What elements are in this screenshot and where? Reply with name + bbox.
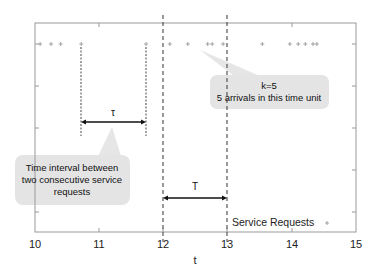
- tau-arrow: [81, 120, 146, 125]
- T-arrow: [163, 196, 227, 201]
- T-label: T: [192, 181, 198, 192]
- callout-left-line-1: Time interval between: [26, 162, 119, 173]
- x-tick-label-13: 13: [221, 238, 233, 250]
- x-tick-label-15: 15: [350, 238, 362, 250]
- callout-right-pointer: [200, 50, 260, 76]
- x-tick-label-14: 14: [286, 238, 298, 250]
- callout-right-line-2: 5 arrivals in this time unit: [217, 92, 322, 103]
- x-tick-label-11: 11: [93, 238, 104, 250]
- x-axis-label: t: [193, 254, 196, 266]
- tau-label: τ: [111, 107, 115, 118]
- x-tick-label-10: 10: [29, 238, 41, 250]
- callout-left-line-3: requests: [54, 186, 91, 197]
- x-tick-label-12: 12: [157, 238, 169, 250]
- legend-marker-icon: [325, 221, 329, 225]
- legend-label: Service Requests: [232, 216, 314, 228]
- callout-right-line-1: k=5: [261, 80, 277, 91]
- chart: τ T Time interval between two consecutiv…: [0, 0, 377, 275]
- callout-left-line-2: two consecutive service: [22, 174, 122, 185]
- service-request-markers: [38, 42, 319, 46]
